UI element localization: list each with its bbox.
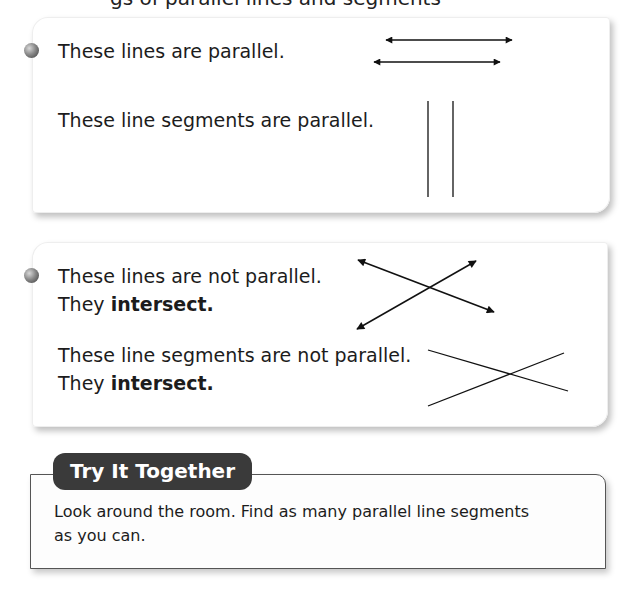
try-it-text-line1: Look around the room. Find as many paral…	[54, 500, 529, 524]
try-it-together-label: Try It Together	[53, 453, 252, 490]
intersecting-lines-figure	[357, 260, 494, 329]
try-it-text-line2: as you can.	[54, 524, 146, 548]
intersecting-segments-figure	[428, 350, 568, 406]
